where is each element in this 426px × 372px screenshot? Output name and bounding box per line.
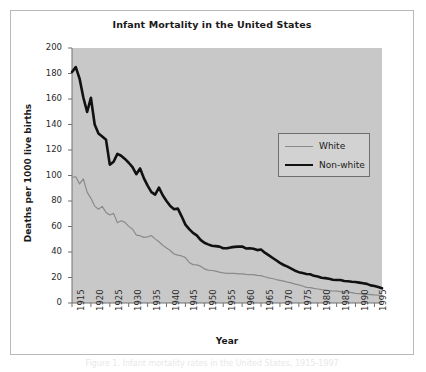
y-tick-label: 100 (36, 170, 62, 180)
y-tick-label: 140 (36, 119, 62, 129)
x-tick-label: 1920 (95, 289, 105, 311)
x-tick-label: 1950 (208, 289, 218, 311)
y-tick-label: 60 (36, 221, 62, 231)
legend-label-non-white: Non-white (319, 160, 365, 170)
y-tick-label: 200 (36, 42, 62, 52)
x-tick-label: 1955 (227, 289, 237, 311)
chart-legend: White Non-white (278, 133, 370, 177)
y-tick-label: 120 (36, 144, 62, 154)
y-tick-label: 20 (36, 272, 62, 282)
x-tick-label: 1960 (246, 289, 256, 311)
x-tick-label: 1940 (171, 289, 181, 311)
legend-entry-non-white: Non-white (285, 157, 365, 173)
x-tick-label: 1990 (360, 289, 370, 311)
x-tick-label: 1945 (189, 289, 199, 311)
x-tick-label: 1935 (152, 289, 162, 311)
x-tick-label: 1915 (76, 289, 86, 311)
legend-entry-white: White (285, 138, 345, 154)
y-tick-label: 160 (36, 93, 62, 103)
x-tick-label: 1995 (378, 289, 388, 311)
plot-area (0, 0, 426, 372)
x-tick-label: 1975 (303, 289, 313, 311)
legend-swatch-white-icon (285, 146, 313, 147)
y-tick-label: 40 (36, 246, 62, 256)
y-tick-label: 80 (36, 195, 62, 205)
figure-container: Infant Mortality in the United States De… (0, 0, 426, 372)
legend-label-white: White (319, 141, 345, 151)
y-tick-label: 0 (36, 297, 62, 307)
legend-swatch-non-white-icon (285, 164, 313, 166)
x-tick-label: 1980 (322, 289, 332, 311)
x-tick-label: 1985 (341, 289, 351, 311)
x-tick-label: 1965 (265, 289, 275, 311)
y-tick-label: 180 (36, 68, 62, 78)
x-tick-label: 1930 (133, 289, 143, 311)
x-tick-label: 1925 (114, 289, 124, 311)
figure-caption: Figure 1. Infant mortality rates in the … (10, 359, 414, 368)
x-tick-label: 1970 (284, 289, 294, 311)
